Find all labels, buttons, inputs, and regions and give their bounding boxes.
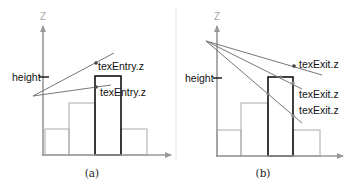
tex-exit-label-2: texExit.z	[299, 88, 339, 100]
z-axis-label: Z	[40, 11, 46, 22]
panel-b: Z height texExit.z texExit.z texExit.z (…	[185, 11, 343, 179]
height-label: height	[12, 71, 41, 83]
z-axis-label: Z	[214, 11, 220, 22]
bar-1	[217, 130, 241, 156]
bar-4	[293, 130, 320, 156]
ray-2-top-hit	[279, 75, 282, 78]
tex-entry-point-2	[94, 85, 98, 89]
tex-exit-point-2	[291, 81, 295, 85]
bar-4	[121, 129, 147, 155]
ray-3-side-hit	[266, 92, 269, 95]
bar-1	[45, 129, 69, 155]
tex-exit-point-1	[292, 64, 296, 68]
height-label: height	[185, 72, 214, 84]
tex-exit-label-3: texExit.z	[299, 104, 339, 116]
diagram-canvas: Z height texEntry.z texEntry.z (a) Z hei…	[0, 0, 354, 188]
tex-exit-point-3	[291, 114, 295, 118]
bar-3-highlighted	[268, 77, 293, 156]
bar-2	[241, 103, 268, 156]
panel-a: Z height texEntry.z texEntry.z (a)	[12, 11, 171, 179]
bar-2	[69, 103, 95, 155]
caption-a: (a)	[85, 167, 99, 179]
tex-entry-label-2: texEntry.z	[100, 86, 146, 98]
caption-b: (b)	[256, 167, 271, 179]
tex-exit-label-1: texExit.z	[299, 58, 339, 70]
tex-entry-label-1: texEntry.z	[98, 60, 144, 72]
